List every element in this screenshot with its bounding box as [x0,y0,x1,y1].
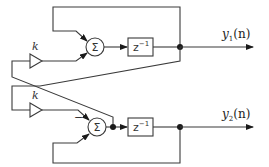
sum2-symbol: Σ [94,121,101,134]
output2-label: y2(n) [221,107,250,123]
sum1-symbol: Σ [92,41,99,54]
gain2-triangle [30,103,42,117]
block-diagram: Σ z−1 y1(n) k k − Σ z−1 y2(n) [0,0,269,167]
gain1-label: k [32,40,39,53]
node2 [110,124,116,130]
gain1-to-sum1-wire [42,53,87,61]
gain1-triangle [30,54,42,68]
gain2-label: k [32,89,39,102]
output1-label: y1(n) [221,27,250,43]
minus-sign: − [74,111,83,124]
bottom-feedback-wire [53,127,180,163]
top-feedback-wire [53,7,180,47]
cross-wire-2 [12,61,113,127]
